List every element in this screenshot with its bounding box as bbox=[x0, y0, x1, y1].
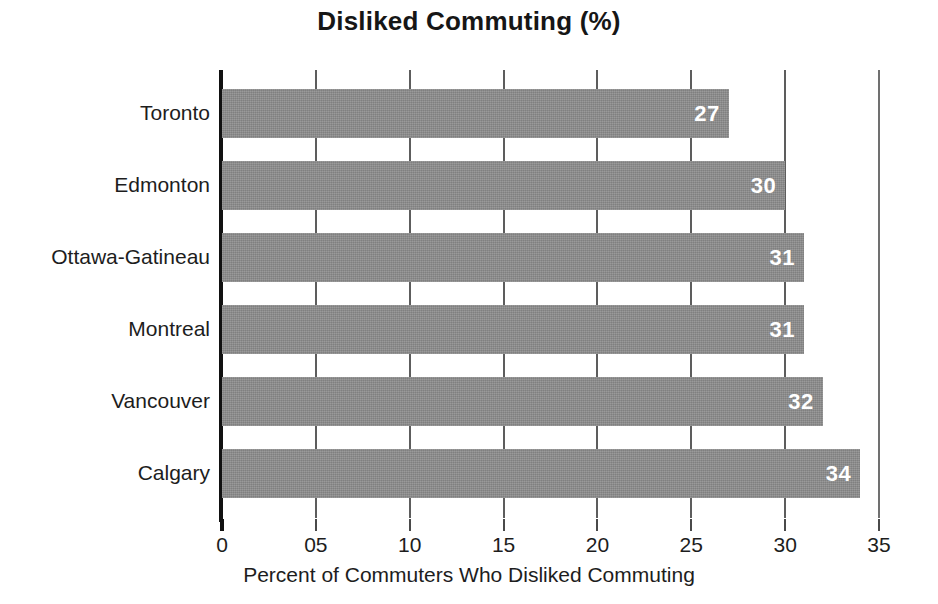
bar-row[interactable]: 27 bbox=[222, 89, 729, 138]
bar-vancouver[interactable]: 32 bbox=[222, 377, 823, 426]
x-tick-10 bbox=[409, 519, 411, 531]
bar-montreal[interactable]: 31 bbox=[222, 305, 804, 354]
bar-value-label: 30 bbox=[751, 175, 776, 197]
bar-row[interactable]: 31 bbox=[222, 233, 804, 282]
plot-area: 273031313234 bbox=[222, 70, 879, 518]
bar-value-label: 32 bbox=[788, 391, 813, 413]
x-tick-label-0: 0 bbox=[187, 533, 257, 557]
bar-value-label: 34 bbox=[826, 463, 851, 485]
x-tick-25 bbox=[690, 519, 692, 531]
x-tick-5 bbox=[315, 519, 317, 531]
x-axis-title: Percent of Commuters Who Disliked Commut… bbox=[0, 563, 938, 587]
x-tick-0 bbox=[220, 519, 224, 531]
x-tick-label-25: 25 bbox=[656, 533, 726, 557]
bar-chart: Disliked Commuting (%) 273031313234 0051… bbox=[0, 0, 938, 604]
bar-row[interactable]: 31 bbox=[222, 305, 804, 354]
bar-edmonton[interactable]: 30 bbox=[222, 161, 785, 210]
category-label-montreal: Montreal bbox=[0, 317, 210, 341]
x-tick-15 bbox=[503, 519, 505, 531]
category-label-vancouver: Vancouver bbox=[0, 389, 210, 413]
bar-value-label: 31 bbox=[769, 319, 794, 341]
chart-title: Disliked Commuting (%) bbox=[0, 6, 938, 37]
x-tick-35 bbox=[878, 519, 880, 531]
category-label-calgary: Calgary bbox=[0, 461, 210, 485]
bar-row[interactable]: 32 bbox=[222, 377, 823, 426]
bars-layer: 273031313234 bbox=[222, 70, 879, 518]
category-label-edmonton: Edmonton bbox=[0, 173, 210, 197]
x-tick-label-10: 10 bbox=[375, 533, 445, 557]
bar-calgary[interactable]: 34 bbox=[222, 449, 860, 498]
x-tick-label-20: 20 bbox=[562, 533, 632, 557]
bar-toronto[interactable]: 27 bbox=[222, 89, 729, 138]
x-tick-label-30: 30 bbox=[750, 533, 820, 557]
category-label-ottawa-gatineau: Ottawa-Gatineau bbox=[0, 245, 210, 269]
x-tick-label-5: 05 bbox=[281, 533, 351, 557]
bar-value-label: 27 bbox=[694, 103, 719, 125]
x-tick-30 bbox=[784, 519, 786, 531]
bar-ottawa-gatineau[interactable]: 31 bbox=[222, 233, 804, 282]
bar-value-label: 31 bbox=[769, 247, 794, 269]
bar-row[interactable]: 30 bbox=[222, 161, 785, 210]
x-tick-20 bbox=[596, 519, 598, 531]
x-tick-label-35: 35 bbox=[844, 533, 914, 557]
category-label-toronto: Toronto bbox=[0, 101, 210, 125]
x-tick-label-15: 15 bbox=[469, 533, 539, 557]
bar-row[interactable]: 34 bbox=[222, 449, 860, 498]
